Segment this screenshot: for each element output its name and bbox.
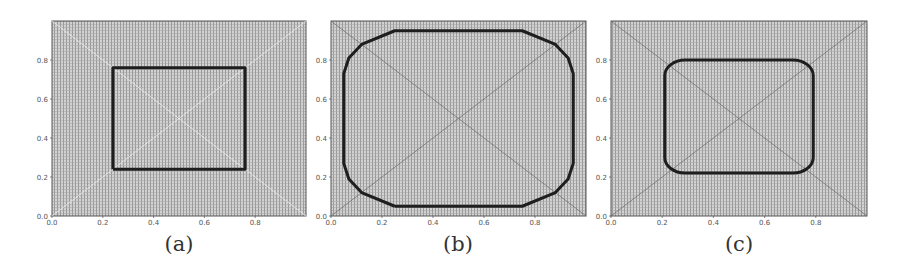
- x-tick-label: 0.4: [708, 219, 720, 227]
- y-tick-label: 0.4: [596, 135, 608, 143]
- panel-c: 0.00.20.40.60.80.00.20.40.60.8 (c): [0, 0, 902, 279]
- y-tick-label: 0.8: [596, 57, 607, 65]
- caption-c: (c): [699, 232, 779, 256]
- x-tick-label: 0.2: [657, 219, 668, 227]
- x-tick-label: 0.6: [759, 219, 771, 227]
- x-tick-label: 0.8: [810, 219, 821, 227]
- y-tick-label: 0.0: [596, 213, 607, 221]
- x-tick-label: 0.0: [605, 219, 616, 227]
- plot-c: 0.00.20.40.60.80.00.20.40.60.8: [0, 0, 902, 230]
- y-tick-label: 0.2: [596, 174, 607, 182]
- y-tick-label: 0.6: [596, 96, 608, 104]
